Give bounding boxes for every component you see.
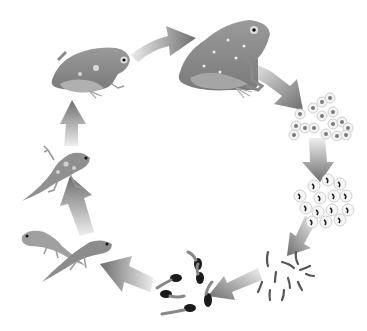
embryos-cluster: [294, 174, 354, 228]
arrow-young-to-adult: [130, 26, 196, 62]
arrow-hatchlings-to-tadpoles: [208, 268, 262, 300]
tadpoles-with-legs: [22, 231, 112, 282]
young-frog: [52, 48, 130, 98]
arrow-legged-to-froglet: [60, 176, 94, 236]
tadpoles: [157, 252, 212, 314]
adult-frog: [179, 20, 270, 98]
hatchling-tadpoles: [258, 252, 314, 300]
arrow-tadpoles-to-legged: [100, 256, 154, 292]
frog-life-cycle-diagram: [0, 0, 367, 331]
arrow-froglet-to-young: [60, 100, 86, 146]
